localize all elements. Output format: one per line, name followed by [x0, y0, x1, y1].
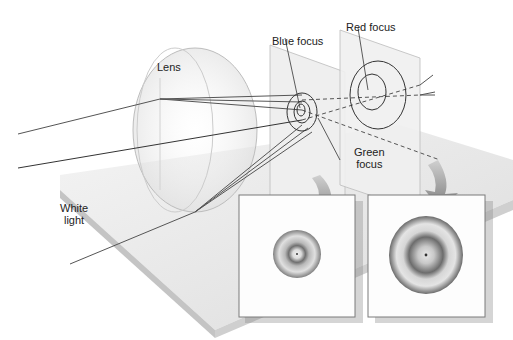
chromatic-aberration-diagram: Lens White light Blue focus Red focus Gr… — [0, 0, 513, 340]
green-focus-label: Green focus — [354, 146, 385, 170]
lens-label: Lens — [157, 61, 181, 73]
blue-focus-inset — [239, 195, 363, 323]
diagram-canvas — [0, 0, 513, 340]
red-focus-screen — [340, 30, 420, 212]
green-focus-line-2: focus — [354, 158, 385, 170]
red-focus-inset — [368, 195, 493, 323]
white-light-label: White light — [60, 202, 88, 226]
green-focus-line-1: Green — [354, 146, 385, 158]
lens — [133, 48, 257, 212]
blue-focus-label: Blue focus — [272, 35, 323, 47]
white-light-line-1: White — [60, 202, 88, 214]
white-light-line-2: light — [60, 214, 88, 226]
red-focus-label: Red focus — [346, 21, 396, 33]
